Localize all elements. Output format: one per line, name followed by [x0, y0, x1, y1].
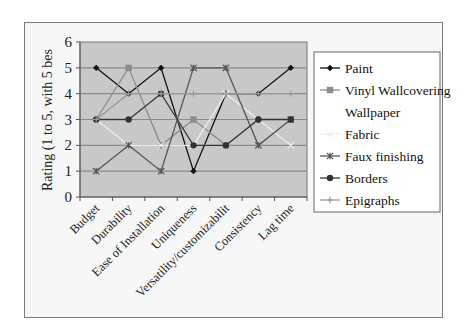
- y-tick-label: 6: [65, 34, 73, 50]
- line-chart: 0123456 BudgetDurabilityEase of Installa…: [0, 0, 467, 335]
- y-tick-label: 2: [65, 137, 73, 153]
- x-axis-labels: BudgetDurabilityEase of InstallationUniq…: [67, 201, 297, 300]
- legend-label: Wallpaper: [345, 105, 401, 120]
- legend-label: Vinyl Wallcovering: [345, 83, 451, 98]
- legend: PaintVinyl WallcoveringWallpaperFabricFa…: [314, 52, 451, 212]
- y-tick-label: 0: [65, 189, 73, 205]
- legend-label: Faux finishing: [345, 149, 424, 164]
- y-tick-label: 4: [65, 86, 73, 102]
- legend-label: Paint: [345, 61, 373, 76]
- x-tick-label: Lag time: [255, 201, 297, 243]
- legend-label: Fabric: [345, 127, 380, 142]
- y-tick-label: 1: [65, 163, 73, 179]
- legend-label: Borders: [345, 171, 388, 186]
- y-axis-label: Rating (1 to 5, with 5 bes: [40, 49, 56, 191]
- y-tick-label: 3: [65, 112, 73, 128]
- legend-item: Wallpaper: [345, 105, 401, 120]
- y-tick-label: 5: [65, 60, 73, 76]
- legend-label: Epigraphs: [345, 193, 400, 208]
